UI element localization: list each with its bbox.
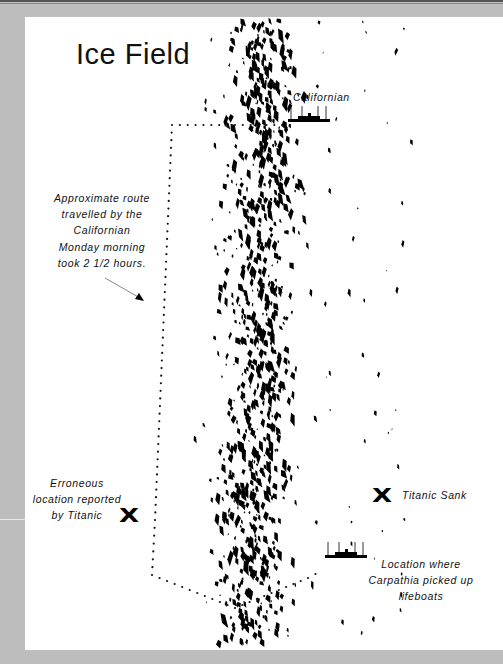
- iceberg: [278, 29, 284, 45]
- route-dot: [167, 207, 169, 209]
- iceberg: [258, 624, 262, 629]
- route-dot: [196, 592, 198, 594]
- iceberg: [410, 140, 413, 146]
- iceberg: [244, 511, 246, 513]
- iceberg: [272, 392, 277, 402]
- iceberg: [227, 411, 230, 418]
- iceberg: [250, 338, 254, 345]
- route-dot: [263, 595, 265, 597]
- iceberg: [273, 164, 277, 171]
- iceberg: [260, 191, 264, 199]
- iceberg: [270, 99, 274, 105]
- iceberg: [275, 449, 277, 453]
- route-dot: [281, 124, 283, 126]
- iceberg: [263, 257, 268, 264]
- carpathia-line: lifeboats: [356, 588, 486, 604]
- iceberg: [265, 27, 270, 37]
- iceberg: [240, 178, 242, 181]
- iceberg: [257, 347, 259, 350]
- erroneous-location-label: Erroneous location reported by Titanic: [32, 475, 122, 524]
- route-dot: [278, 589, 280, 591]
- iceberg: [240, 382, 245, 390]
- iceberg: [215, 513, 220, 526]
- route-dot: [164, 283, 166, 285]
- iceberg: [232, 254, 234, 258]
- iceberg: [295, 500, 297, 506]
- iceberg: [269, 603, 272, 609]
- iceberg: [284, 346, 289, 354]
- route-dot: [165, 261, 167, 263]
- iceberg: [234, 320, 236, 324]
- route-dot: [155, 504, 157, 506]
- iceberg: [278, 518, 281, 524]
- route-dot: [163, 306, 165, 308]
- erroneous-line: by Titanic: [32, 507, 122, 523]
- iceberg: [229, 598, 231, 603]
- iceberg: [232, 583, 235, 593]
- iceberg: [243, 504, 246, 510]
- iceberg: [266, 77, 268, 79]
- route-dot: [161, 359, 163, 361]
- iceberg: [284, 368, 288, 375]
- route-dot: [161, 352, 163, 354]
- route-dot: [153, 527, 155, 529]
- iceberg: [282, 389, 283, 391]
- iceberg: [245, 429, 247, 434]
- iceberg: [222, 444, 223, 447]
- iceberg: [309, 289, 312, 297]
- iceberg: [234, 536, 236, 541]
- iceberg: [289, 292, 293, 300]
- iceberg: [230, 616, 233, 620]
- iceberg: [401, 240, 404, 248]
- iceberg: [210, 37, 212, 42]
- iceberg: [237, 385, 241, 392]
- iceberg: [279, 219, 281, 223]
- iceberg: [226, 174, 229, 178]
- iceberg: [234, 27, 239, 34]
- iceberg: [242, 372, 243, 376]
- iceberg: [330, 409, 332, 411]
- ships: [288, 106, 367, 558]
- iceberg: [273, 546, 276, 551]
- iceberg: [251, 364, 255, 371]
- titanic-sank-x-icon: X: [372, 485, 392, 505]
- iceberg: [261, 602, 262, 605]
- route-dot: [159, 397, 161, 399]
- iceberg: [211, 497, 213, 503]
- iceberg: [266, 313, 268, 317]
- iceberg: [364, 439, 366, 444]
- carpathia-line: Carpathia picked up: [356, 572, 486, 588]
- iceberg: [306, 242, 309, 249]
- icebergs: [194, 18, 413, 648]
- iceberg: [254, 406, 256, 410]
- iceberg: [365, 31, 367, 34]
- iceberg: [214, 245, 217, 251]
- iceberg: [240, 569, 244, 575]
- iceberg: [328, 188, 331, 194]
- iceberg: [236, 198, 240, 209]
- route-dot: [157, 451, 159, 453]
- iceberg: [388, 432, 389, 435]
- route-dot: [169, 162, 171, 164]
- route-dot: [170, 139, 172, 141]
- iceberg: [234, 144, 237, 149]
- route-dot: [157, 443, 159, 445]
- iceberg: [403, 28, 405, 30]
- iceberg: [264, 464, 267, 469]
- iceberg: [275, 590, 279, 600]
- route-dot: [165, 268, 167, 270]
- iceberg: [295, 366, 297, 373]
- route-dot: [289, 124, 291, 126]
- iceberg: [262, 138, 265, 145]
- route-dot: [167, 215, 169, 217]
- iceberg: [244, 153, 248, 161]
- iceberg: [233, 546, 235, 551]
- route-dot: [234, 124, 236, 126]
- route-dot: [162, 337, 164, 339]
- iceberg: [239, 305, 241, 307]
- route-dot: [307, 577, 309, 579]
- iceberg: [329, 371, 331, 377]
- iceberg: [289, 66, 291, 69]
- iceberg: [269, 576, 271, 579]
- route-dot: [210, 124, 212, 126]
